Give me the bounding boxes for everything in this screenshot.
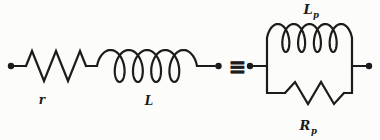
parallel-circuit bbox=[247, 24, 372, 104]
series-circuit bbox=[8, 50, 222, 82]
resistor-Rp-label: Rp bbox=[300, 119, 317, 132]
resistor-Rp bbox=[285, 82, 344, 104]
resistor-Rp-symbol: R bbox=[300, 118, 311, 133]
inductor-Lp bbox=[267, 24, 352, 52]
inductor-L-label: L bbox=[145, 95, 153, 107]
circuit-figure: ≡ r L Lp Rp bbox=[0, 0, 380, 140]
resistor-r bbox=[26, 51, 86, 81]
inductor-Lp-label: Lp bbox=[303, 3, 318, 16]
resistor-r-label: r bbox=[39, 94, 45, 106]
terminal-node-right bbox=[366, 63, 372, 69]
inductor-L bbox=[97, 50, 197, 82]
resistor-Rp-subscript: p bbox=[311, 125, 317, 135]
inductor-Lp-symbol: L bbox=[303, 2, 312, 17]
terminal-node-series-right bbox=[215, 63, 221, 69]
circuit-diagram: ≡ bbox=[0, 0, 380, 140]
inductor-Lp-subscript: p bbox=[313, 9, 319, 19]
equivalence-symbol: ≡ bbox=[229, 55, 247, 79]
